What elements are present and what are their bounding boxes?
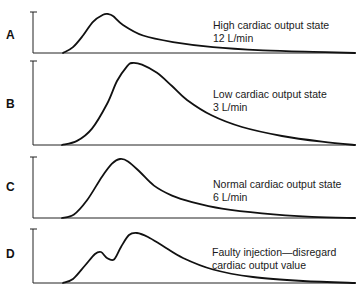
- panel-label-a: A: [6, 28, 15, 42]
- panel-a: A High cardiac output state 12 L/min: [6, 12, 356, 53]
- curve-b: [62, 63, 355, 145]
- annotation-d-line1: Faulty injection—disregard: [212, 246, 336, 258]
- panel-b: B Low cardiac output state 3 L/min: [6, 61, 356, 145]
- annotation-d-line2: cardiac output value: [212, 259, 306, 271]
- annotation-b-line2: 3 L/min: [213, 101, 248, 113]
- thermodilution-curves-figure: A High cardiac output state 12 L/min B L…: [0, 0, 364, 298]
- annotation-c-line1: Normal cardiac output state: [213, 178, 342, 190]
- annotation-a-line1: High cardiac output state: [213, 19, 329, 31]
- panel-label-d: D: [6, 247, 15, 261]
- annotation-c-line2: 6 L/min: [213, 191, 248, 203]
- panel-d: D Faulty injection—disregard cardiac out…: [6, 229, 356, 283]
- annotation-b-line1: Low cardiac output state: [213, 88, 327, 100]
- panel-label-b: B: [6, 97, 15, 111]
- panel-c: C Normal cardiac output state 6 L/min: [6, 157, 356, 218]
- annotation-a-line2: 12 L/min: [213, 32, 253, 44]
- panel-label-c: C: [6, 180, 15, 194]
